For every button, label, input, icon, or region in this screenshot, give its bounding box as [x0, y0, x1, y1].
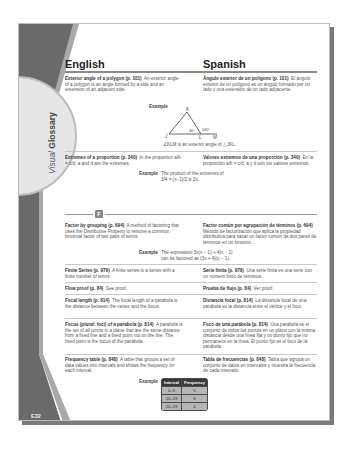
- glossary-entry: Finite Series (p. 979) A finite series i…: [65, 268, 317, 280]
- svg-text:L: L: [199, 135, 202, 140]
- svg-text:140°: 140°: [202, 128, 210, 132]
- glossary-entry: Focus (plural: foci) of a parabola (p. 8…: [65, 322, 317, 352]
- spanish-heading: Spanish: [203, 58, 246, 70]
- entry-rule: [65, 151, 317, 152]
- example-text: The expression 3x(x − 1) + 4(x − 1) can …: [161, 250, 233, 261]
- glossary-entry: Frequency table (p. 848) A table that gr…: [65, 357, 317, 375]
- table-row: 10–19 8: [162, 395, 207, 402]
- entry-rule: [65, 264, 317, 265]
- table-row: 20–29 4: [162, 403, 207, 410]
- example-label: Example: [139, 171, 158, 176]
- entry-rule: [65, 354, 317, 355]
- glossary-entry: Factor by grouping (p. 694) A method of …: [65, 223, 317, 247]
- angle-caption: ∠KLM is an exterior angle of △JKL.: [163, 142, 236, 147]
- heading-rule: [65, 71, 317, 73]
- glossary-entry: Focal length (p. 814) The focal length o…: [65, 298, 317, 316]
- glossary-entry: Exterior angle of a polygon (p. 101) An …: [65, 76, 317, 100]
- letter-divider-f: F: [65, 210, 317, 218]
- english-heading: English: [65, 58, 105, 70]
- svg-text:K: K: [186, 107, 190, 112]
- page-number: E32: [31, 413, 41, 419]
- table-row: 0–9 5: [162, 387, 207, 394]
- svg-text:M: M: [213, 135, 217, 140]
- svg-text:40°: 40°: [189, 129, 195, 133]
- example-label: Example: [139, 250, 158, 255]
- svg-text:J: J: [165, 134, 168, 139]
- visual-glossary-label: Visual Glossary: [47, 84, 57, 174]
- glossary-entry: Extremes of a proportion (p. 340) In the…: [65, 155, 317, 169]
- entry-rule: [65, 282, 317, 283]
- glossary-entry: Flow proof (p. 84) See proof. Prueba de …: [65, 286, 317, 292]
- entry-rule: [65, 318, 317, 319]
- glossary-page: Visual Glossary E32 English Spanish Exte…: [18, 23, 330, 421]
- frequency-table: Interval Frequency 0–9 5 10–19 8 20–29 4: [161, 378, 208, 411]
- entry-rule: [65, 294, 317, 295]
- example-label: Example: [139, 379, 158, 384]
- exterior-angle-diagram: K J L M 40° 140°: [165, 106, 221, 140]
- example-text: The product of the extremes of 3/4 = (x−…: [161, 171, 224, 182]
